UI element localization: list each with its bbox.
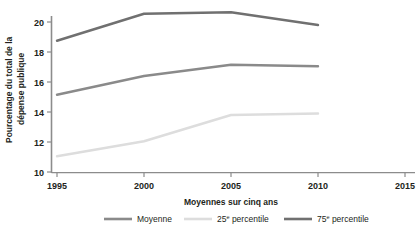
chart-legend: Moyenne 25e percentile 75e percentile <box>104 214 369 224</box>
y-axis-title-line2: dépense publique <box>16 52 26 125</box>
legend-75-tail: percentile <box>330 214 369 224</box>
y-tick-label-18: 18 <box>34 48 44 58</box>
legend-25-number: 25 <box>217 214 227 224</box>
x-axis-ticks <box>57 173 405 177</box>
legend-label-25e-percentile: 25e percentile <box>217 214 269 224</box>
line-chart: 20 18 16 14 12 10 1995 2000 2005 2010 20… <box>0 0 419 234</box>
series-line-moyenne <box>57 65 318 95</box>
y-tick-label-20: 20 <box>34 18 44 28</box>
legend-25-tail: percentile <box>230 214 269 224</box>
x-tick-label-2000: 2000 <box>134 181 154 191</box>
x-tick-label-2010: 2010 <box>308 181 328 191</box>
series-line-75e-percentile <box>57 12 318 41</box>
x-tick-label-2015: 2015 <box>395 181 415 191</box>
chart-container: 20 18 16 14 12 10 1995 2000 2005 2010 20… <box>0 0 419 234</box>
legend-label-75e-percentile: 75e percentile <box>317 214 369 224</box>
legend-75-number: 75 <box>317 214 327 224</box>
series-line-25e-percentile <box>57 114 318 157</box>
x-axis-title: Moyennes sur cinq ans <box>184 197 278 207</box>
legend-label-moyenne: Moyenne <box>137 214 172 224</box>
y-tick-label-16: 16 <box>34 78 44 88</box>
y-tick-label-10: 10 <box>34 168 44 178</box>
x-tick-label-1995: 1995 <box>47 181 67 191</box>
y-tick-label-12: 12 <box>34 138 44 148</box>
y-axis-title: Pourcentage du total de la dépense publi… <box>4 36 26 143</box>
x-tick-label-2005: 2005 <box>221 181 241 191</box>
y-axis-title-line1: Pourcentage du total de la <box>4 36 14 143</box>
y-tick-label-14: 14 <box>34 108 44 118</box>
